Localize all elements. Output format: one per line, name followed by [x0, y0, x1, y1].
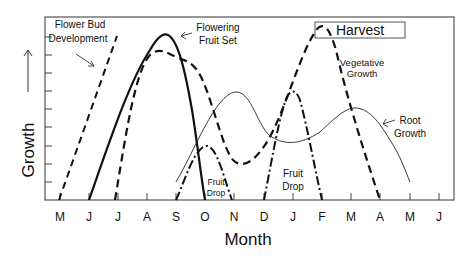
annotation-text: Fruit Set: [199, 35, 237, 46]
annotation-vegetative: Vegetative Growth: [340, 57, 384, 79]
series-flower-bud-development: [59, 36, 117, 200]
annotation-text: Growth: [394, 128, 426, 139]
annotation-root: Root Growth: [394, 115, 426, 139]
month-label: N: [230, 210, 239, 224]
x-tick-labels: M J J A S O N D J F M A M J: [55, 210, 442, 224]
annotation-text: Drop: [282, 181, 304, 192]
x-axis-title: Month: [224, 230, 271, 249]
month-label: M: [346, 210, 356, 224]
annotation-flower-bud: Flower Bud Development: [49, 19, 108, 44]
month-label: J: [115, 210, 121, 224]
annotation-text: Root: [399, 115, 420, 126]
month-label: A: [143, 210, 151, 224]
annotation-flowering: Flowering Fruit Set: [196, 22, 239, 46]
annotation-text: Flowering: [196, 22, 239, 33]
annotation-text: Growth: [347, 68, 378, 79]
up-arrow-icon: [24, 50, 32, 92]
y-ticks: [45, 37, 52, 182]
month-label: O: [200, 210, 209, 224]
month-label: S: [172, 210, 180, 224]
annotation-fruit-drop-1: Fruit Drop: [207, 177, 226, 198]
annotation-fruit-drop-2: Fruit Drop: [282, 168, 304, 192]
annotation-text: Flower Bud: [55, 19, 106, 30]
annotation-text: Vegetative: [340, 57, 384, 68]
arrow-icon: [181, 32, 192, 39]
month-label: J: [436, 210, 442, 224]
growth-cycle-chart: M J J A S O N D J F M A M J Month Growth…: [0, 0, 474, 256]
month-label: D: [260, 210, 269, 224]
annotation-text: Fruit: [283, 168, 303, 179]
series-vegetative-growth: [115, 26, 380, 200]
y-axis-title: Growth: [19, 123, 38, 178]
arrow-icon: [383, 119, 395, 127]
annotation-text: Development: [49, 33, 108, 44]
plot-frame: [45, 17, 454, 200]
annotation-text: Drop: [207, 188, 226, 198]
month-label: M: [55, 210, 65, 224]
month-label: F: [318, 210, 325, 224]
month-label: M: [405, 210, 415, 224]
annotation-text: Fruit: [208, 177, 226, 187]
month-label: J: [86, 210, 92, 224]
arrow-icon: [76, 54, 94, 66]
month-label: A: [376, 210, 384, 224]
month-label: J: [290, 210, 296, 224]
harvest-label: Harvest: [336, 22, 384, 38]
